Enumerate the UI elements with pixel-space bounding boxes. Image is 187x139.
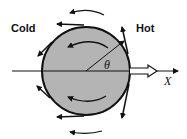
cold-label: Cold (11, 22, 35, 34)
external-flow-arrow-bottom (70, 131, 102, 133)
surface-arrow-top-left (57, 24, 84, 25)
theta-label: θ (104, 58, 110, 73)
x-axis-label: X (164, 74, 171, 89)
migration-direction-arrow (130, 65, 157, 77)
diagram-canvas (0, 0, 187, 139)
hot-label: Hot (136, 22, 154, 34)
surface-arrow-bottom-left (57, 116, 84, 117)
external-flow-arrow-top (70, 10, 104, 15)
thermocapillary-sphere-diagram: Cold Hot θ X (0, 0, 187, 139)
